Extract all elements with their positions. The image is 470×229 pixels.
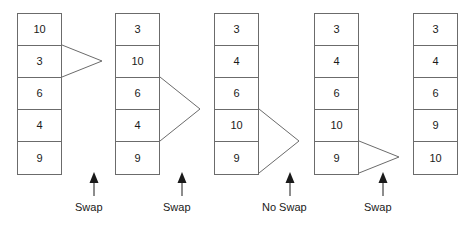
array-cell: 6 — [414, 78, 457, 110]
array-cell: 6 — [215, 78, 258, 110]
array-cell: 9 — [116, 142, 159, 174]
array-cell: 3 — [116, 14, 159, 46]
array-cell: 9 — [215, 142, 258, 174]
up-arrow-icon — [373, 172, 393, 196]
array-cell: 9 — [315, 142, 358, 174]
array-cell: 10 — [215, 110, 258, 142]
array-column: 310649 — [115, 13, 160, 175]
array-cell: 4 — [18, 110, 61, 142]
array-column: 346910 — [413, 13, 458, 175]
array-cell: 4 — [116, 110, 159, 142]
comparison-bracket — [58, 41, 106, 81]
comparison-bracket — [255, 105, 303, 177]
array-cell: 4 — [414, 46, 457, 78]
array-cell: 9 — [18, 142, 61, 174]
bubble-sort-diagram: 103649310649346109346109346910SwapSwapNo… — [0, 0, 470, 229]
comparison-bracket — [355, 137, 403, 177]
array-cell: 10 — [414, 142, 457, 174]
array-cell: 3 — [315, 14, 358, 46]
swap-caption: Swap — [75, 202, 103, 213]
up-arrow-icon — [280, 172, 300, 196]
array-cell: 6 — [315, 78, 358, 110]
array-cell: 6 — [18, 78, 61, 110]
array-column: 346109 — [214, 13, 259, 175]
array-cell: 9 — [414, 110, 457, 142]
up-arrow-icon — [172, 172, 192, 196]
swap-caption: Swap — [163, 202, 191, 213]
array-cell: 3 — [18, 46, 61, 78]
array-cell: 6 — [116, 78, 159, 110]
array-column: 103649 — [17, 13, 62, 175]
swap-caption: No Swap — [262, 202, 307, 213]
swap-caption: Swap — [364, 202, 392, 213]
array-cell: 10 — [315, 110, 358, 142]
comparison-bracket — [156, 73, 204, 145]
array-cell: 4 — [315, 46, 358, 78]
array-cell: 3 — [414, 14, 457, 46]
array-cell: 3 — [215, 14, 258, 46]
array-cell: 4 — [215, 46, 258, 78]
array-column: 346109 — [314, 13, 359, 175]
up-arrow-icon — [84, 172, 104, 196]
array-cell: 10 — [18, 14, 61, 46]
array-cell: 10 — [116, 46, 159, 78]
